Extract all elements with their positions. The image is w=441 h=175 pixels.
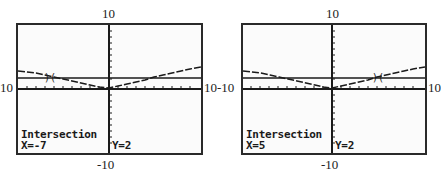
xmax-label: 10 <box>204 81 217 94</box>
graph-panel-left: 10 10 10 -10 <box>0 0 220 175</box>
graph-panel-right: 10 -10 10 -10 <box>221 0 441 175</box>
y-readout: Y=2 <box>335 140 354 151</box>
xmin-label: 10 <box>0 81 13 94</box>
ymin-label: -10 <box>97 158 114 171</box>
cursor-icon: )( <box>44 72 56 83</box>
x-readout: X=5 <box>246 140 265 151</box>
ymax-label: 10 <box>102 7 115 20</box>
xmax-label: 10 <box>428 81 441 94</box>
calculator-screen: )( Intersection X=5 Y=2 <box>241 23 427 155</box>
ymax-label: 10 <box>326 7 339 20</box>
ymin-label: -10 <box>321 158 338 171</box>
xmin-label: -10 <box>217 81 234 94</box>
calculator-screen: )( Intersection X=-7 Y=2 <box>16 23 203 155</box>
cursor-icon: )( <box>372 72 384 83</box>
x-readout: X=-7 <box>21 140 46 151</box>
y-readout: Y=2 <box>112 140 131 151</box>
